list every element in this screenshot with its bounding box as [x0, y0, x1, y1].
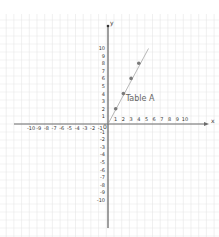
svg-text:9: 9	[176, 116, 179, 122]
svg-text:6: 6	[153, 116, 156, 122]
svg-text:-3: -3	[82, 125, 87, 131]
coordinate-plane-chart: -10-9-8-7-6-5-4-3-2-11234567891010987654…	[0, 0, 219, 237]
svg-text:7: 7	[160, 116, 163, 122]
svg-text:3: 3	[102, 98, 105, 104]
svg-text:-8: -8	[44, 125, 49, 131]
svg-text:2: 2	[102, 106, 105, 112]
svg-text:1: 1	[114, 116, 117, 122]
svg-text:5: 5	[102, 83, 105, 89]
svg-text:-8: -8	[100, 182, 105, 188]
svg-text:4: 4	[137, 116, 140, 122]
y-axis-label: y	[110, 19, 114, 27]
svg-text:-7: -7	[52, 125, 57, 131]
svg-text:8: 8	[168, 116, 171, 122]
svg-text:2: 2	[122, 116, 125, 122]
svg-text:-10: -10	[27, 125, 35, 131]
svg-text:9: 9	[102, 53, 105, 59]
svg-text:-9: -9	[36, 125, 41, 131]
svg-text:-5: -5	[100, 159, 105, 165]
svg-text:5: 5	[145, 116, 148, 122]
svg-text:-9: -9	[100, 189, 105, 195]
svg-text:10: 10	[99, 45, 105, 51]
svg-text:10: 10	[182, 116, 188, 122]
x-axis-label: x	[211, 117, 215, 124]
svg-text:-2: -2	[90, 125, 95, 131]
svg-text:-10: -10	[97, 197, 105, 203]
svg-text:-5: -5	[67, 125, 72, 131]
svg-text:-3: -3	[100, 144, 105, 150]
svg-text:1: 1	[102, 113, 105, 119]
svg-text:8: 8	[102, 60, 105, 66]
svg-text:-6: -6	[100, 167, 105, 173]
svg-text:-7: -7	[100, 174, 105, 180]
origin-label: 0	[103, 123, 107, 130]
svg-text:-6: -6	[59, 125, 64, 131]
svg-text:-2: -2	[100, 136, 105, 142]
svg-text:4: 4	[102, 91, 105, 97]
svg-text:7: 7	[102, 68, 105, 74]
svg-text:-4: -4	[75, 125, 80, 131]
svg-text:3: 3	[130, 116, 133, 122]
svg-text:6: 6	[102, 75, 105, 81]
svg-text:-4: -4	[100, 151, 105, 157]
series-label-table-a: Table A	[125, 94, 155, 103]
